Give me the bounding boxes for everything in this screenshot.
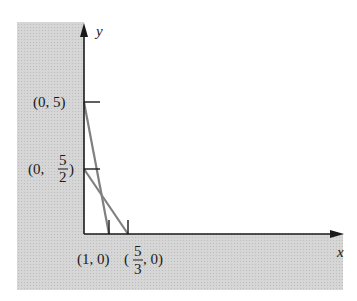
- label-5-3-0-close: , 0): [143, 251, 163, 268]
- label-0-5: (0, 5): [33, 94, 66, 111]
- x-axis-label: x: [336, 244, 344, 260]
- line-a: [84, 102, 109, 234]
- diagram-canvas: y x (0, 5) (0, 5 2 ) (1, 0) ( 5 3 , 0): [0, 0, 357, 301]
- label-5-3-0-den: 3: [134, 261, 142, 277]
- label-0-5-2-close: ): [69, 161, 74, 178]
- label-1-0: (1, 0): [77, 251, 110, 268]
- label-5-3-0-open: (: [124, 251, 129, 268]
- label-5-3-0-num: 5: [134, 243, 142, 259]
- label-0-5-2: (0,: [28, 161, 44, 178]
- label-0-5-2-num: 5: [59, 152, 67, 168]
- y-axis-label: y: [94, 23, 103, 39]
- label-0-5-2-den: 2: [59, 169, 67, 185]
- line-b: [84, 169, 128, 234]
